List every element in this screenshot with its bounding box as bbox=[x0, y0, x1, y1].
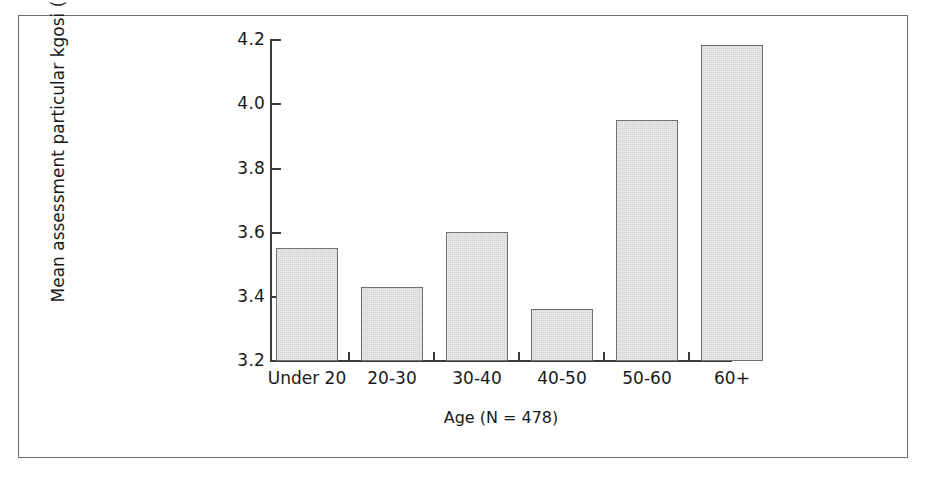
y-tick-4.2 bbox=[272, 39, 281, 41]
y-tick-3.8 bbox=[272, 168, 281, 170]
y-tick-label-3.2: 3.2 bbox=[205, 352, 265, 369]
y-tick-label-4.0: 4.0 bbox=[205, 95, 265, 112]
y-axis-title: Mean assessment particular kgosi (1-5) bbox=[49, 0, 68, 303]
bar-under-20 bbox=[276, 248, 338, 361]
x-tick-5 bbox=[688, 352, 690, 361]
y-tick-label-3.8: 3.8 bbox=[205, 160, 265, 177]
y-tick-label-3.6: 3.6 bbox=[205, 224, 265, 241]
x-axis-title: Age (N = 478) bbox=[270, 408, 732, 427]
x-tick-2 bbox=[433, 352, 435, 361]
y-tick-4.0 bbox=[272, 103, 281, 105]
bar-30-40 bbox=[446, 232, 508, 361]
x-tick-3 bbox=[518, 352, 520, 361]
figure: 4.2 4.0 3.8 3.6 3.4 3.2 Under 20 20-30 3… bbox=[0, 0, 925, 478]
bar-60-plus bbox=[701, 45, 763, 361]
bar-50-60 bbox=[616, 120, 678, 362]
y-axis-line bbox=[270, 39, 272, 362]
x-tick-1 bbox=[348, 352, 350, 361]
bar-20-30 bbox=[361, 287, 423, 361]
y-tick-3.6 bbox=[272, 232, 281, 234]
y-tick-label-3.4: 3.4 bbox=[205, 288, 265, 305]
x-tick-4 bbox=[603, 352, 605, 361]
bar-40-50 bbox=[531, 309, 593, 361]
y-tick-label-4.2: 4.2 bbox=[205, 31, 265, 48]
x-tick-label-60-plus: 60+ bbox=[677, 368, 787, 388]
